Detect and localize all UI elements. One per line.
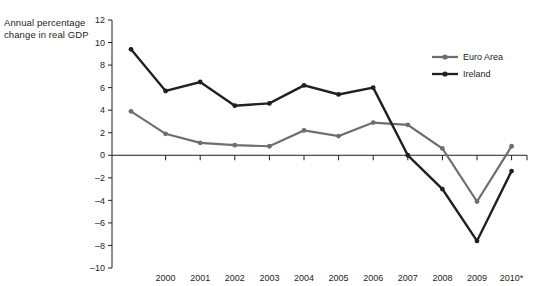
x-tick-label-2007: 2007	[398, 273, 418, 283]
data-point	[440, 187, 445, 192]
data-point	[405, 122, 410, 127]
data-point	[198, 140, 203, 145]
data-point	[440, 146, 445, 151]
x-tick-label-2006: 2006	[363, 273, 383, 283]
legend-label: Ireland	[463, 69, 491, 79]
y-tick-label: 8	[100, 60, 105, 70]
legend-label: Euro Area	[463, 52, 503, 62]
x-tick-label-2009: 2009	[467, 273, 487, 283]
series-line-euro-area	[131, 111, 512, 201]
x-tick-label-2005: 2005	[329, 273, 349, 283]
x-tick-label-2003: 2003	[259, 273, 279, 283]
y-tick-label: –10	[90, 263, 105, 273]
data-point	[336, 92, 341, 97]
data-point	[509, 144, 514, 149]
data-point	[475, 199, 480, 204]
axis-title-line-1: Annual percentage	[4, 17, 85, 28]
y-tick-label: 2	[100, 128, 105, 138]
legend-item-ireland: Ireland	[432, 69, 491, 79]
y-tick-label: –2	[95, 173, 105, 183]
legend-item-euro-area: Euro Area	[432, 52, 503, 62]
data-point	[371, 85, 376, 90]
y-tick-label: –6	[95, 218, 105, 228]
y-tick-label: 6	[100, 83, 105, 93]
data-point	[232, 143, 237, 148]
x-axis: 2000200120022003200420052006200720082009…	[112, 155, 527, 283]
data-point	[475, 239, 480, 244]
x-tick-label-2004: 2004	[294, 273, 314, 283]
x-tick-label-2010-provisional: 2010*	[500, 273, 524, 283]
gdp-growth-line-chart: Annual percentage change in real GDP 121…	[0, 0, 539, 286]
data-point	[129, 47, 134, 52]
data-point	[267, 101, 272, 106]
legend-marker	[442, 54, 447, 59]
legend-marker	[442, 71, 447, 76]
y-axis: 121086420–2–4–6–8–10	[90, 15, 112, 273]
data-point	[509, 169, 514, 174]
plot-area	[129, 47, 514, 243]
chart-legend: Euro AreaIreland	[432, 52, 503, 79]
y-tick-label: 0	[100, 150, 105, 160]
data-point	[302, 128, 307, 133]
data-point	[371, 120, 376, 125]
data-point	[336, 134, 341, 139]
axis-title-group: Annual percentage change in real GDP	[4, 17, 89, 40]
y-tick-label: –8	[95, 241, 105, 251]
y-tick-label: 4	[100, 105, 105, 115]
x-tick-label-2001: 2001	[190, 273, 210, 283]
x-tick-label-2008: 2008	[432, 273, 452, 283]
x-tick-label-2002: 2002	[225, 273, 245, 283]
y-tick-label: 12	[95, 15, 105, 25]
data-point	[163, 89, 168, 94]
x-tick-label-2000: 2000	[156, 273, 176, 283]
y-tick-label: –4	[95, 196, 105, 206]
series-line-ireland	[131, 49, 512, 241]
data-point	[198, 80, 203, 85]
data-point	[129, 109, 134, 114]
data-point	[302, 83, 307, 88]
data-point	[267, 144, 272, 149]
y-tick-label: 10	[95, 38, 105, 48]
data-point	[232, 103, 237, 108]
axis-title-line-2: change in real GDP	[4, 29, 89, 40]
chart-canvas: Annual percentage change in real GDP 121…	[0, 0, 539, 286]
data-point	[405, 153, 410, 158]
data-point	[163, 131, 168, 136]
